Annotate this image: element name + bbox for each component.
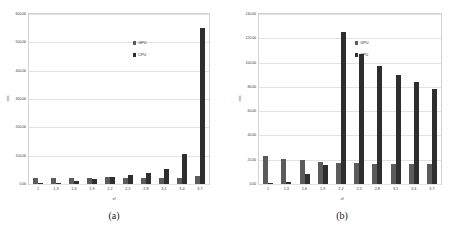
bar-cpu: [305, 174, 310, 184]
chart-a-legend: GPU CPU: [133, 41, 146, 57]
bar-cpu: [414, 82, 419, 184]
x-axis-tick-label: 1.6: [302, 187, 307, 191]
y-axis-tick-label: 40.00: [248, 133, 257, 137]
chart-b-bars: 11.31.61.92.22.52.83.13.43.7: [259, 14, 441, 184]
chart-a-y-axis-label: sec: [5, 95, 10, 101]
legend-label-cpu: CPU: [138, 53, 146, 57]
legend-swatch-gpu-icon: [133, 41, 136, 44]
bar-cpu: [74, 181, 79, 184]
bar-group: 1.9: [83, 14, 101, 184]
chart-b-caption: (b): [336, 210, 348, 221]
x-axis-tick-label: 3.4: [411, 187, 416, 191]
bar-cpu: [286, 182, 291, 184]
bar-group: 3.1: [386, 14, 404, 184]
bar-gpu: [263, 156, 268, 184]
legend-entry-cpu: CPU: [133, 53, 146, 57]
gridline: 0.00: [259, 184, 441, 185]
gridline: 0.00: [29, 184, 209, 185]
y-axis-tick-label: 0.00: [19, 182, 26, 186]
chart-b-legend: GPU CPU: [355, 41, 368, 57]
y-axis-tick-label: 600.00: [16, 12, 26, 16]
bar-cpu: [396, 75, 401, 184]
y-axis-tick-label: 80.00: [248, 85, 257, 89]
bar-cpu: [341, 32, 346, 184]
x-axis-tick-label: 2.2: [107, 187, 112, 191]
bar-cpu: [323, 165, 328, 184]
x-axis-tick-label: 1.3: [53, 187, 58, 191]
x-axis-tick-label: 1.6: [71, 187, 76, 191]
x-axis-tick-label: 3.7: [197, 187, 202, 191]
bar-group: 2.8: [368, 14, 386, 184]
legend-label-gpu: GPU: [360, 41, 368, 45]
chart-a-x-axis-label: vf: [112, 196, 115, 201]
chart-b-plot-frame: 140.00120.00100.0080.0060.0040.0020.000.…: [258, 13, 442, 185]
bar-group: 3.4: [405, 14, 423, 184]
y-axis-tick-label: 500.00: [16, 40, 26, 44]
x-axis-tick-label: 1: [37, 187, 39, 191]
bar-group: 1: [29, 14, 47, 184]
chart-b-x-axis-label: vf: [340, 196, 343, 201]
bar-cpu: [38, 183, 43, 184]
legend-entry-cpu: CPU: [355, 53, 368, 57]
y-axis-tick-label: 0.00: [249, 182, 256, 186]
bar-cpu: [146, 173, 151, 184]
bar-group: 1.3: [277, 14, 295, 184]
bar-group: 1.6: [295, 14, 313, 184]
bar-group: 2.2: [332, 14, 350, 184]
x-axis-tick-label: 1.3: [284, 187, 289, 191]
bar-cpu: [268, 183, 273, 184]
x-axis-tick-label: 3.7: [429, 187, 434, 191]
bar-group: 1.6: [65, 14, 83, 184]
figure-container: Hy=40, Hu=39 sec 600.00500.00400.00300.0…: [0, 0, 457, 243]
bar-cpu: [377, 66, 382, 184]
bar-group: 2.5: [350, 14, 368, 184]
legend-entry-gpu: GPU: [355, 41, 368, 45]
bar-group: 3.7: [191, 14, 209, 184]
y-axis-tick-label: 20.00: [248, 158, 257, 162]
bar-cpu: [359, 54, 364, 184]
chart-b-y-axis-label: sec: [237, 95, 242, 101]
legend-swatch-gpu-icon: [355, 41, 358, 44]
bar-group: 2.8: [137, 14, 155, 184]
bar-group: 1.9: [314, 14, 332, 184]
y-axis-tick-label: 400.00: [16, 69, 26, 73]
bar-gpu: [281, 159, 286, 185]
y-axis-tick-label: 200.00: [16, 125, 26, 129]
legend-label-gpu: GPU: [138, 41, 146, 45]
x-axis-tick-label: 2.5: [356, 187, 361, 191]
legend-label-cpu: CPU: [360, 53, 368, 57]
x-axis-tick-label: 1.9: [89, 187, 94, 191]
y-axis-tick-label: 100.00: [16, 154, 26, 158]
bar-cpu: [92, 179, 97, 184]
x-axis-tick-label: 3.1: [393, 187, 398, 191]
x-axis-tick-label: 2.2: [338, 187, 343, 191]
x-axis-tick-label: 2.8: [143, 187, 148, 191]
bar-group: 3.1: [155, 14, 173, 184]
y-axis-tick-label: 140.00: [246, 12, 256, 16]
x-axis-tick-label: 1: [267, 187, 269, 191]
bar-group: 3.7: [423, 14, 441, 184]
x-axis-tick-label: 3.1: [161, 187, 166, 191]
bar-group: 2.5: [119, 14, 137, 184]
y-axis-tick-label: 100.00: [246, 61, 256, 65]
legend-swatch-cpu-icon: [355, 53, 358, 56]
chart-a-bars: 11.31.61.92.22.52.83.13.43.7: [29, 14, 209, 184]
bar-group: 1.3: [47, 14, 65, 184]
x-axis-tick-label: 2.5: [125, 187, 130, 191]
bar-group: 1: [259, 14, 277, 184]
bar-cpu: [128, 175, 133, 184]
bar-group: 3.4: [173, 14, 191, 184]
chart-panel-b: Hy=30, Hu=29 sec 140.00120.00100.0080.00…: [228, 0, 456, 243]
x-axis-tick-label: 3.4: [179, 187, 184, 191]
bar-cpu: [200, 28, 205, 184]
y-axis-tick-label: 300.00: [16, 97, 26, 101]
bar-cpu: [164, 169, 169, 184]
bar-cpu: [432, 89, 437, 184]
legend-swatch-cpu-icon: [133, 53, 136, 56]
x-axis-tick-label: 1.9: [320, 187, 325, 191]
chart-a-caption: (a): [108, 210, 119, 221]
bar-cpu: [182, 154, 187, 184]
y-axis-tick-label: 60.00: [248, 109, 257, 113]
chart-a-plot-frame: 600.00500.00400.00300.00200.00100.000.00…: [28, 13, 210, 185]
legend-entry-gpu: GPU: [133, 41, 146, 45]
